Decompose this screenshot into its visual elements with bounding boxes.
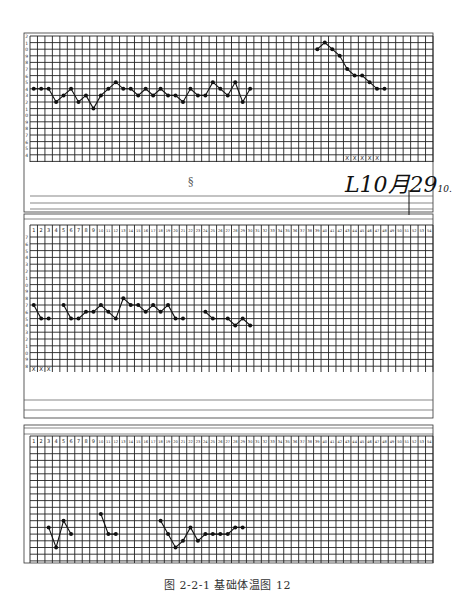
svg-text:30: 30 xyxy=(248,440,253,444)
svg-text:34: 34 xyxy=(278,440,283,444)
figure-caption: 图 2-2-1 基础体温图 12 xyxy=(0,576,455,592)
svg-text:52: 52 xyxy=(412,440,417,444)
svg-text:29: 29 xyxy=(240,440,245,444)
svg-text:1: 1 xyxy=(32,438,35,444)
svg-text:3: 3 xyxy=(47,438,50,444)
svg-text:8: 8 xyxy=(84,438,87,444)
svg-text:11: 11 xyxy=(106,440,111,444)
svg-text:45: 45 xyxy=(360,440,365,444)
svg-text:5: 5 xyxy=(62,438,65,444)
svg-text:32: 32 xyxy=(263,440,268,444)
svg-text:54: 54 xyxy=(427,440,432,444)
svg-text:23: 23 xyxy=(196,440,201,444)
svg-text:39: 39 xyxy=(315,440,320,444)
svg-text:38: 38 xyxy=(308,440,313,444)
svg-text:27: 27 xyxy=(225,440,230,444)
svg-text:9: 9 xyxy=(92,438,95,444)
svg-text:33: 33 xyxy=(270,440,275,444)
svg-text:53: 53 xyxy=(420,440,425,444)
svg-text:31: 31 xyxy=(255,440,260,444)
svg-text:19: 19 xyxy=(166,440,171,444)
svg-text:28: 28 xyxy=(233,440,238,444)
svg-text:17: 17 xyxy=(151,440,156,444)
svg-text:12: 12 xyxy=(114,440,119,444)
svg-text:14: 14 xyxy=(128,440,133,444)
svg-text:49: 49 xyxy=(390,440,395,444)
svg-text:25: 25 xyxy=(211,440,216,444)
svg-text:18: 18 xyxy=(158,440,163,444)
svg-text:24: 24 xyxy=(203,440,208,444)
svg-text:42: 42 xyxy=(337,440,342,444)
svg-text:7: 7 xyxy=(77,438,80,444)
svg-text:26: 26 xyxy=(218,440,223,444)
bbt-chart-panel-3: 1234567891011121314151617181920212223242… xyxy=(0,0,455,603)
svg-text:22: 22 xyxy=(188,440,193,444)
svg-text:4: 4 xyxy=(55,438,58,444)
svg-text:43: 43 xyxy=(345,440,350,444)
svg-text:6: 6 xyxy=(69,438,72,444)
chart-panel-3-graphic: 1234567891011121314151617181920212223242… xyxy=(0,0,455,603)
svg-text:51: 51 xyxy=(405,440,410,444)
svg-text:15: 15 xyxy=(136,440,141,444)
svg-text:48: 48 xyxy=(382,440,387,444)
svg-text:16: 16 xyxy=(143,440,148,444)
svg-text:2: 2 xyxy=(40,438,43,444)
svg-text:10: 10 xyxy=(99,440,104,444)
svg-text:50: 50 xyxy=(397,440,402,444)
svg-text:41: 41 xyxy=(330,440,335,444)
svg-text:20: 20 xyxy=(173,440,178,444)
svg-text:40: 40 xyxy=(322,440,327,444)
svg-text:35: 35 xyxy=(285,440,290,444)
svg-text:36: 36 xyxy=(293,440,298,444)
svg-text:46: 46 xyxy=(367,440,372,444)
svg-text:13: 13 xyxy=(121,440,126,444)
svg-text:44: 44 xyxy=(352,440,357,444)
svg-text:47: 47 xyxy=(375,440,380,444)
svg-text:21: 21 xyxy=(181,440,186,444)
svg-text:37: 37 xyxy=(300,440,305,444)
